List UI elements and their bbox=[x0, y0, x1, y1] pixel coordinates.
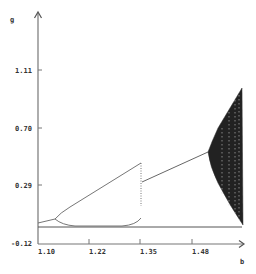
second-branch bbox=[142, 152, 208, 182]
y-tick-1.11: 1.11 bbox=[15, 67, 32, 75]
x-tick-1.35: 1.35 bbox=[140, 248, 157, 256]
x-tick-1.22: 1.22 bbox=[89, 248, 106, 256]
y-tick-neg0.12: -0.12 bbox=[11, 240, 32, 248]
lower-branch bbox=[55, 218, 141, 226]
chaotic-band bbox=[208, 88, 243, 225]
upper-branch bbox=[55, 163, 141, 219]
initial-branch bbox=[38, 219, 55, 223]
bifurcation-chart: g 1.11 0.70 0.29 -0.12 1.10 1.22 1.35 1.… bbox=[0, 0, 256, 274]
x-axis-label: b bbox=[240, 258, 244, 266]
y-tick-0.29: 0.29 bbox=[15, 182, 32, 190]
x-axis bbox=[38, 239, 244, 248]
y-axis-label: g bbox=[10, 16, 14, 24]
y-axis bbox=[35, 12, 43, 244]
x-tick-1.48: 1.48 bbox=[192, 248, 209, 256]
y-tick-0.70: 0.70 bbox=[15, 125, 32, 133]
x-tick-1.10: 1.10 bbox=[38, 248, 55, 256]
